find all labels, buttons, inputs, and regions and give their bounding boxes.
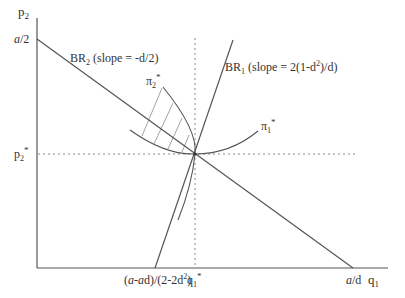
equilibrium-point	[193, 152, 196, 155]
x-axis-label: q1	[368, 272, 379, 289]
y-axis-label: p2	[18, 4, 29, 21]
y-tick-a-over-2: a/2	[14, 32, 29, 46]
pi2-star-label: π2*	[146, 72, 161, 90]
x-tick-q1-star: q1*	[187, 271, 202, 289]
best-response-diagram: p2 q1 a/2 p2* (a-ad)/(2-2d2) q1* a/d BR2…	[0, 0, 405, 298]
x-tick-br1-intercept: (a-ad)/(2-2d2)	[124, 272, 191, 287]
y-tick-p2-star: p2*	[14, 145, 29, 163]
br2-label: BR2 (slope = -d/2)	[70, 51, 158, 67]
x-tick-a-over-d: a/d	[346, 273, 361, 287]
pi1-star-label: π1*	[261, 117, 276, 135]
br1-label: BR1 (slope = 2(1-d2)/d)	[225, 59, 337, 76]
